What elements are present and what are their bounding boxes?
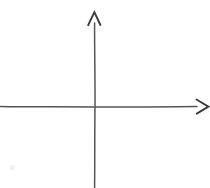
- diagram-canvas: [0, 0, 210, 188]
- coordinate-axes-drawing: [0, 0, 210, 188]
- x-axis-line: [0, 106, 197, 107]
- x-axis-arrowhead-icon: [197, 100, 209, 114]
- faint-pencil-smudge: [10, 165, 15, 170]
